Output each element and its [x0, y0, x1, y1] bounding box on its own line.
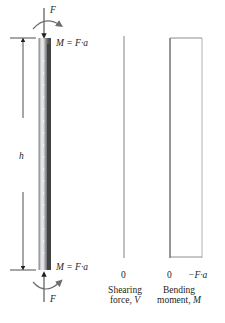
column: [39, 38, 51, 270]
moment-title: Bending moment, M: [153, 285, 205, 305]
shear-title-symbol: V: [134, 295, 140, 305]
shear-title-line2: force, V: [104, 295, 146, 305]
height-label: h: [19, 150, 24, 162]
shear-title-prefix: force,: [110, 295, 134, 305]
bottom-moment-label: M = F·a: [56, 262, 88, 272]
moment-axis-zero: 0: [167, 270, 172, 280]
moment-title-symbol: M: [193, 295, 201, 305]
top-force-label: F: [50, 5, 56, 15]
moment-title-line1: Bending: [153, 285, 205, 295]
moment-axis-value: −F·a: [188, 270, 207, 280]
shear-title-line1: Shearing: [104, 285, 146, 295]
top-moment-label: M = F·a: [56, 38, 88, 48]
moment-diagram: [170, 38, 202, 258]
bottom-force-label: F: [50, 294, 56, 304]
moment-title-prefix: moment,: [157, 295, 193, 305]
shear-axis-zero: 0: [121, 270, 126, 280]
shear-title: Shearing force, V: [104, 285, 146, 305]
moment-title-line2: moment, M: [153, 295, 205, 305]
